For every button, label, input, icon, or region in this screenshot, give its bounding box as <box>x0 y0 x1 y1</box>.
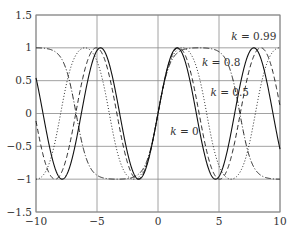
x-tick-label: 5 <box>216 215 223 227</box>
y-tick-label: −1 <box>17 173 32 185</box>
curve-annotations: k = 0.99k = 0.8k = 0.5k = 0 <box>170 30 276 137</box>
chart: 1.510.50−0.5−1−1.5 −10−50510 k = 0.99k =… <box>0 0 298 233</box>
curve-label: k = 0.99 <box>231 30 276 42</box>
y-tick-label: 1.5 <box>15 9 32 21</box>
y-tick-label: 0.5 <box>15 74 32 86</box>
x-tick-label: 10 <box>273 215 286 227</box>
curve-label: k = 0.8 <box>202 56 241 68</box>
x-tick-labels: −10−50510 <box>25 215 287 227</box>
x-tick-label: −5 <box>89 215 104 227</box>
y-tick-labels: 1.510.50−0.5−1−1.5 <box>7 9 33 218</box>
x-tick-label: −10 <box>25 215 47 227</box>
x-tick-label: 0 <box>155 215 162 227</box>
y-tick-label: 1 <box>25 41 32 53</box>
y-tick-label: 0 <box>25 107 32 119</box>
curve-label: k = 0 <box>170 125 199 137</box>
y-tick-label: −0.5 <box>7 140 33 152</box>
curve-label: k = 0.5 <box>210 86 249 98</box>
